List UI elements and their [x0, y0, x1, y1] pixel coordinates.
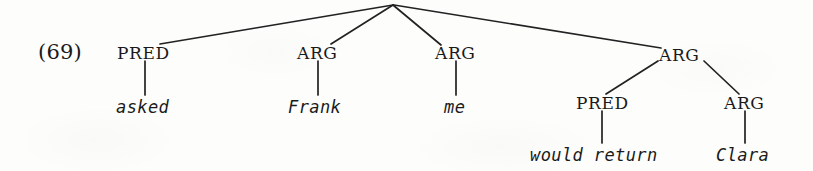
tree-node-arg-frank: ARG [297, 45, 337, 62]
tree-terminal-word-me: me [444, 99, 465, 116]
tree-terminal-word-asked: asked [116, 99, 169, 116]
edge-clause-arg-clara [704, 61, 739, 94]
tree-node-arg-me: ARG [435, 45, 475, 62]
tree-terminal-word-clara: Clara [716, 147, 769, 164]
tree-diagram-lines [0, 0, 813, 171]
tree-terminal-word-frank: Frank [288, 99, 341, 116]
edge-root-pred-asked [160, 5, 393, 44]
example-number: (69) [38, 42, 82, 63]
tree-node-arg-clause: ARG [659, 47, 699, 64]
edge-root-arg-clause [394, 5, 661, 48]
edge-clause-pred [606, 61, 658, 94]
tree-node-pred-asked: PRED [117, 45, 170, 62]
tree-node-arg-clara: ARG [724, 95, 764, 112]
example-figure: (69) PREDARGARGARGPREDARG askedFrankmewo… [0, 0, 813, 171]
tree-node-pred-would-return: PRED [576, 95, 629, 112]
tree-terminal-word-would-return: would return [530, 147, 658, 164]
